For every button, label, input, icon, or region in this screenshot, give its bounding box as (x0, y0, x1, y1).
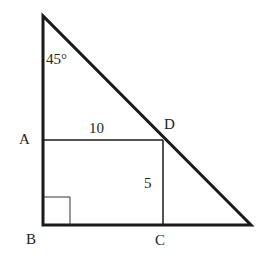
length-label-DC: 5 (144, 175, 152, 191)
length-label-AD: 10 (89, 120, 104, 136)
point-label-D: D (164, 116, 175, 132)
angle-label: 45° (46, 51, 67, 67)
point-label-C: C (155, 232, 165, 248)
geometry-diagram: 45° A B C D 10 5 (0, 0, 263, 257)
outer-triangle (43, 16, 251, 225)
point-label-B: B (26, 231, 36, 247)
point-label-A: A (19, 131, 30, 147)
right-angle-marker (44, 197, 70, 225)
